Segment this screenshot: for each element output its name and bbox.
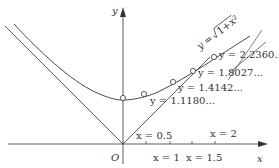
curve-label-prefix: y = [194, 32, 215, 52]
point-x2 [211, 54, 216, 59]
y-axis-arrow-icon [120, 7, 126, 17]
point-x15 [190, 68, 195, 73]
tick-label-1: x = 1 [153, 152, 180, 163]
value-label-05: y = 1.1180... [149, 95, 215, 106]
x-axis-arrow-icon [258, 141, 268, 147]
origin-label: O [111, 152, 119, 163]
asymptote-left [5, 26, 123, 144]
x-axis-label: x [257, 153, 263, 164]
tick-label-15: x = 1.5 [186, 152, 222, 163]
y-axis-label: y [111, 5, 118, 16]
point-x0 [120, 95, 125, 100]
tick-label-05: x = 0.5 [136, 130, 172, 141]
diagram-canvas: y x O x = 0.5 x = 1 x = 1.5 x = 2 y = 1.… [0, 0, 279, 168]
value-label-1: y = 1.4142... [177, 82, 243, 93]
point-x05 [141, 91, 146, 96]
value-label-2: y = 2.2360... [218, 49, 279, 60]
curve-label-radicand: 1+x² [215, 13, 241, 36]
tick-label-2: x = 2 [210, 128, 237, 139]
value-label-15: y = 1.8027... [197, 67, 263, 78]
point-x1 [170, 79, 175, 84]
